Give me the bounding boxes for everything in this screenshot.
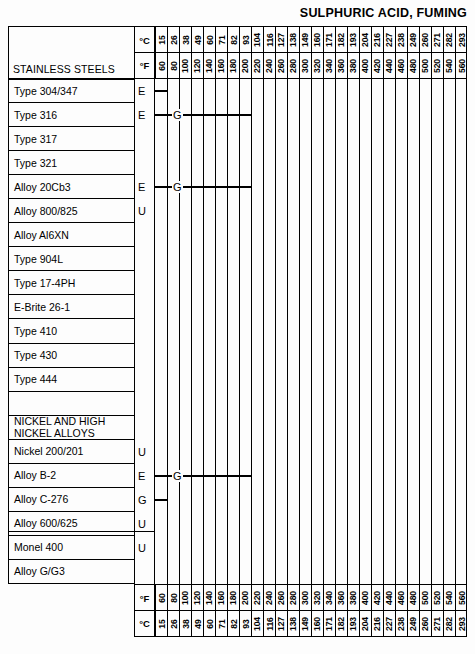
table-row[interactable]: Type 430: [8, 344, 467, 368]
table-row[interactable]: E-Brite 26-1: [8, 295, 467, 319]
row-label-alloy-b-2: Alloy B-2: [8, 464, 134, 488]
gridline: [167, 271, 168, 295]
gridline: [311, 319, 312, 343]
gridline: [299, 392, 300, 416]
gridline: [215, 199, 216, 223]
tick-fahrenheit-top-9: 240: [264, 53, 276, 78]
tick-celsius-top-1: 26: [168, 27, 180, 53]
table-row[interactable]: Type 904L: [8, 247, 467, 271]
gridline: [323, 488, 324, 512]
table-row[interactable]: Type 410: [8, 319, 467, 343]
tick-fahrenheit-bottom-label-15: 360: [337, 591, 347, 605]
table-row[interactable]: Monel 400U: [8, 536, 467, 560]
table-row[interactable]: Type 17-4PH: [8, 271, 467, 295]
tick-fahrenheit-top-label-20: 460: [397, 58, 407, 72]
table-row[interactable]: Nickel 200/201U: [8, 440, 467, 464]
gridline: [275, 79, 276, 103]
gridline: [263, 368, 264, 392]
gridline: [347, 536, 348, 560]
tick-fahrenheit-bottom-2: 100: [180, 585, 192, 611]
tick-fahrenheit-top-16: 380: [348, 53, 360, 78]
gridline: [407, 103, 408, 127]
tick-celsius-top-7: 93: [240, 27, 252, 53]
row-label-type-444: Type 444: [8, 368, 134, 392]
gridline: [179, 247, 180, 271]
gridline: [383, 416, 384, 440]
row-label-monel-400: Monel 400: [8, 536, 134, 560]
tick-celsius-bottom-7: 93: [240, 611, 252, 636]
tick-celsius-top-label-24: 282: [445, 33, 455, 47]
tick-fahrenheit-bottom-13: 320: [312, 585, 324, 611]
gridline: [167, 560, 168, 584]
table-row[interactable]: NICKEL AND HIGHNICKEL ALLOYS: [8, 416, 467, 440]
gridline: [455, 344, 456, 368]
tick-fahrenheit-bottom-label-9: 240: [265, 591, 275, 605]
gridline: [275, 127, 276, 151]
gridline: [239, 247, 240, 271]
gridline: [323, 223, 324, 247]
gridline: [455, 247, 456, 271]
gridline: [167, 488, 168, 512]
tick-celsius-bottom-label-14: 171: [325, 616, 335, 630]
tick-celsius-bottom-label-20: 238: [397, 616, 407, 630]
gridline: [359, 127, 360, 151]
table-row[interactable]: Type 316EG: [8, 103, 467, 127]
tick-fahrenheit-top-24: 540: [444, 53, 456, 78]
rating-code-cell: U: [134, 536, 155, 560]
table-row[interactable]: Alloy Al6XN: [8, 223, 467, 247]
gridline: [299, 127, 300, 151]
gridline: [203, 271, 204, 295]
gridline: [359, 368, 360, 392]
gridline: [263, 536, 264, 560]
gridline: [203, 223, 204, 247]
gridline: [263, 344, 264, 368]
gridline: [335, 319, 336, 343]
rating-bar: [155, 499, 167, 501]
gridline: [203, 368, 204, 392]
tick-celsius-top-24: 282: [444, 27, 456, 53]
table-row[interactable]: Alloy 600/625U: [8, 512, 467, 536]
table-row[interactable]: [8, 392, 467, 416]
table-row[interactable]: Alloy C-276G: [8, 488, 467, 512]
gridline: [299, 271, 300, 295]
row-grid: [155, 271, 467, 295]
table-row[interactable]: Alloy 800/825U: [8, 199, 467, 223]
table-row[interactable]: Alloy B-2EG: [8, 464, 467, 488]
gridline: [407, 368, 408, 392]
gridline: [455, 127, 456, 151]
gridline: [287, 440, 288, 464]
gridline: [239, 199, 240, 223]
gridline: [251, 368, 252, 392]
tick-fahrenheit-bottom-18: 420: [372, 585, 384, 611]
tick-celsius-top-3: 49: [192, 27, 204, 53]
table-row[interactable]: Type 444: [8, 368, 467, 392]
rating-code-inline: G: [172, 181, 183, 193]
table-row[interactable]: Alloy 20Cb3EG: [8, 175, 467, 199]
gridline: [167, 512, 168, 536]
table-row[interactable]: Type 321: [8, 151, 467, 175]
gridline: [275, 247, 276, 271]
gridline: [443, 560, 444, 584]
gridline: [407, 416, 408, 440]
gridline: [299, 536, 300, 560]
scale-celsius-bottom: 1526384960718293104116127138149160171182…: [155, 610, 467, 637]
table-row[interactable]: Type 317: [8, 127, 467, 151]
tick-celsius-top-label-6: 82: [228, 35, 238, 44]
table-row[interactable]: Alloy G/G3: [8, 560, 467, 584]
tick-celsius-bottom-label-18: 216: [373, 616, 383, 630]
gridline: [275, 103, 276, 127]
rating-code-cell: [134, 416, 155, 440]
gridline: [395, 464, 396, 488]
gridline: [179, 368, 180, 392]
gridline: [347, 560, 348, 584]
table-row[interactable]: Type 304/347E: [8, 79, 467, 103]
tick-fahrenheit-bottom-label-20: 460: [397, 591, 407, 605]
gridline: [395, 127, 396, 151]
gridline: [287, 271, 288, 295]
gridline: [311, 199, 312, 223]
gridline: [431, 319, 432, 343]
tick-celsius-top-12: 149: [300, 27, 312, 53]
row-grid: [155, 199, 467, 223]
gridline: [239, 536, 240, 560]
rating-code-cell: E: [134, 79, 155, 103]
